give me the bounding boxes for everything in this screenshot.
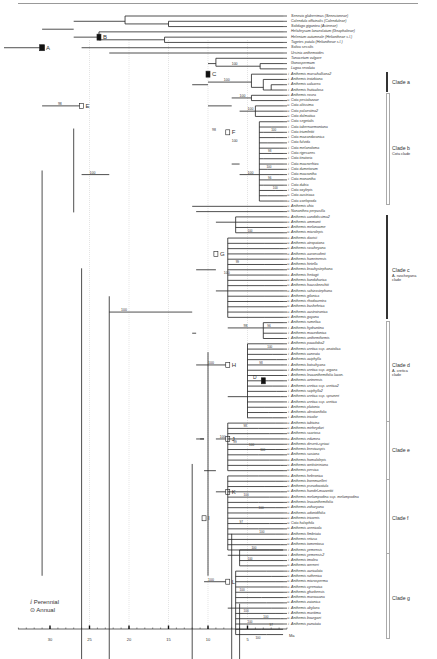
axis-tick-10: 10 <box>206 637 210 642</box>
taxon-label: Anthemis tomentosa <box>291 542 324 547</box>
taxon-label: Anthemis cretica ssp. anatolica <box>291 347 341 352</box>
perennial-icon: ⅈ <box>286 352 291 357</box>
perennial-icon: ⅈ <box>286 384 291 389</box>
taxon-label: Anthemis kotschyana <box>291 363 325 368</box>
taxon-label: Cota triumfettii <box>291 130 314 135</box>
perennial-icon: ⅈ <box>286 188 291 193</box>
taxon-label: Anthemis microlepis <box>291 230 323 235</box>
taxon-label: Anthemis trotzkiana <box>291 77 323 82</box>
node-l-marker <box>226 579 230 584</box>
taxon-label: Cota austriaca <box>291 193 314 198</box>
taxon-label: Anthemis plutonia <box>291 405 320 410</box>
annual-icon: ⊙ <box>286 511 291 516</box>
taxon-label: Cota oxylepis <box>291 188 313 193</box>
taxon-label: Anthemis leucanthemifolia <box>291 500 333 505</box>
annual-icon: ⊙ <box>286 495 291 500</box>
taxon-label: Anthemis brevicuspis <box>291 447 325 452</box>
taxon-label: Anthemis chia <box>291 204 314 209</box>
taxon-label: Cota altissima <box>291 103 314 108</box>
bootstrap-value: 100 <box>240 94 246 98</box>
bootstrap-value: 100 <box>90 171 96 175</box>
taxon-label: Anthemis austroiranica <box>291 310 328 315</box>
bootstrap-value: 100 <box>259 530 264 534</box>
node-label-l: L <box>232 579 236 585</box>
taxon-label: Tagetes patula (Heliantheae s.l.) <box>291 40 343 45</box>
taxon-label: Anthemis aetnensis <box>291 378 322 383</box>
perennial-icon: ⅈ <box>286 373 291 378</box>
bootstrap-value: 97 <box>270 623 274 627</box>
perennial-icon: ⅈ <box>286 167 291 172</box>
annual-icon: ⊙ <box>286 505 291 510</box>
taxon-label: Ursinia anthemoides <box>291 51 324 56</box>
taxon-label: Anthemis rosea <box>291 93 316 98</box>
taxon-label: Anthemis cretica ssp. cretica2 <box>291 384 339 389</box>
perennial-icon: ⅈ <box>286 156 291 161</box>
axis-tick-20: 20 <box>127 637 131 642</box>
bootstrap-value: 100 <box>267 345 272 349</box>
annual-icon: ⊙ <box>286 294 291 299</box>
node-label-h: H <box>232 362 236 368</box>
perennial-icon: ⅈ <box>286 394 291 399</box>
perennial-icon: ⅈ <box>286 331 291 336</box>
annual-icon: ⊙ <box>286 119 291 124</box>
annual-icon: ⊙ <box>286 299 291 304</box>
taxon-label: Anthemis cyrenaica <box>291 585 322 590</box>
clade-label-b: Clade b <box>392 145 410 151</box>
bootstrap-value: 100 <box>240 588 245 592</box>
taxon-label: Anthemis ammanii <box>291 220 321 225</box>
clade-bar-b <box>386 93 390 205</box>
taxon-label: Anthemis aaronsohnii <box>291 252 326 257</box>
perennial-icon: ⅈ <box>286 558 291 563</box>
perennial-icon: ⅈ <box>286 341 291 346</box>
perennial-icon: ⅈ <box>286 611 291 616</box>
annual-icon: ⊙ <box>286 98 291 103</box>
annual-icon: ⊙ <box>286 220 291 225</box>
taxon-label: Anthemis auriculata <box>291 569 323 574</box>
bootstrap-value: 100 <box>255 636 260 640</box>
taxon-label: Anthemis edumea <box>291 437 320 442</box>
axis-tick-30: 30 <box>48 637 52 642</box>
taxon-label: Anthemis cuneata <box>291 352 320 357</box>
taxon-label: Anthemis deserti-syriaci <box>291 442 329 447</box>
perennial-icon: ⅈ <box>286 72 291 77</box>
clade-bar-a <box>386 72 388 92</box>
taxon-label: Anthemis abrotanifolia <box>291 410 327 415</box>
taxon-label: Anthemis rascheyana <box>291 246 326 251</box>
perennial-icon: ⅈ <box>286 135 291 140</box>
perennial-icon: ⅈ <box>30 599 32 605</box>
taxon-label: Anthemis maritima <box>291 611 321 616</box>
taxon-label: Anthemis atropatana <box>291 241 324 246</box>
taxon-label: Anthemis haussknechtii <box>291 283 329 288</box>
annual-icon: ⊙ <box>286 452 291 457</box>
taxon-label: Anthemis hydruntina <box>291 326 324 331</box>
taxon-label: Anthemis hamrinensis <box>291 257 326 262</box>
annual-icon: ⊙ <box>286 199 291 204</box>
taxon-label: Anthemis anthemiformis <box>291 336 330 341</box>
taxon-label: Helichrysum lanceolatum (Gnaphalieae) <box>291 29 355 34</box>
taxon-label: Lugoa revoluta <box>291 66 315 71</box>
node-label-c: C <box>212 71 217 77</box>
annual-icon: ⊙ <box>286 241 291 246</box>
bootstrap-value: 100 <box>232 139 238 143</box>
clade-sublabel: Cota clade <box>392 152 410 156</box>
taxon-label: Anthemis werneri <box>291 563 319 568</box>
annual-icon: ⊙ <box>286 526 291 531</box>
taxon-label: Anthemis zoharyana <box>291 505 324 510</box>
annual-icon: ⊙ <box>286 114 291 119</box>
node-d-marker <box>261 378 265 384</box>
perennial-icon: ⅈ <box>286 77 291 82</box>
perennial-icon: ⅈ <box>286 622 291 627</box>
taxon-label: Cota monantha <box>291 177 316 182</box>
bootstrap-value: 100 <box>220 435 226 439</box>
annual-icon: ⊙ <box>286 463 291 468</box>
annual-icon: ⊙ <box>286 209 291 214</box>
perennial-icon: ⅈ <box>286 389 291 394</box>
annual-icon: ⊙ <box>286 267 291 272</box>
annual-icon: ⊙ <box>286 315 291 320</box>
node-g-marker <box>214 251 218 256</box>
perennial-icon: ⅈ <box>286 347 291 352</box>
annual-icon: ⊙ <box>286 204 291 209</box>
taxon-label: Anthemis pauciloba2 <box>291 341 324 346</box>
perennial-icon: ⅈ <box>286 320 291 325</box>
clade-label-c: Clade c <box>392 267 410 273</box>
